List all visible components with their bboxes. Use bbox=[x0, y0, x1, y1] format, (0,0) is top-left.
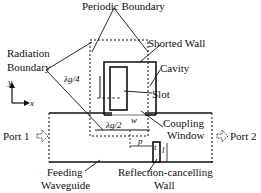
slot bbox=[110, 67, 127, 110]
axis-y-label: y bbox=[7, 77, 12, 87]
radiation-boundary-label-2: Boundary bbox=[7, 61, 51, 73]
coupling-window-label-2: Window bbox=[167, 129, 204, 141]
lambda-half-label: λg/2 bbox=[105, 120, 122, 130]
feeding-waveguide-label-2: Waveguide bbox=[41, 179, 90, 191]
coupling-window-label-1: Coupling bbox=[163, 117, 204, 129]
feeding-waveguide-label-1: Feeding bbox=[47, 166, 83, 178]
port1-label: Port 1 bbox=[3, 130, 30, 142]
dim-w-label: w bbox=[131, 115, 137, 125]
lambda-quarter-label: λg/4 bbox=[63, 74, 80, 84]
port1-arrow-icon bbox=[37, 130, 48, 142]
reflection-wall-label-2: Wall bbox=[154, 179, 175, 191]
port2-arrow-icon bbox=[217, 130, 228, 142]
waveguide-slot-diagram: Periodic Boundary Radiation Boundary Sho… bbox=[0, 0, 261, 193]
dim-l-label: l bbox=[162, 145, 165, 155]
dim-p-label: p bbox=[137, 136, 143, 146]
port2-label: Port 2 bbox=[230, 130, 257, 142]
axis-icon bbox=[9, 82, 30, 106]
radiation-boundary-label-1: Radiation bbox=[7, 47, 50, 59]
periodic-boundary-label: Periodic Boundary bbox=[82, 0, 165, 12]
cavity-label: Cavity bbox=[160, 62, 190, 74]
axis-x-label: x bbox=[29, 98, 34, 108]
shorted-wall-label: Shorted Wall bbox=[148, 37, 205, 49]
slot-label: Slot bbox=[152, 88, 170, 100]
reflection-wall-label-1: Reflection-cancelling bbox=[118, 166, 213, 178]
